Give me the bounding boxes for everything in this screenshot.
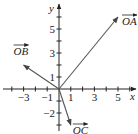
- vectors: OAOBOC: [14, 15, 137, 134]
- y-tick-label: 3: [50, 47, 56, 59]
- x-tick-label: 5: [115, 91, 121, 103]
- vector-label-text: OB: [14, 45, 29, 57]
- axes: [3, 4, 136, 131]
- coordinate-plane: −3−1135531−2 OAOBOC x y: [0, 0, 138, 134]
- vector-label-text: OA: [122, 15, 137, 27]
- y-tick-label: 1: [50, 71, 56, 83]
- vector-label-oa: OA: [122, 15, 137, 27]
- x-tick-label: 3: [92, 91, 98, 103]
- x-axis-label: x: [129, 90, 135, 102]
- vector-label-text: OC: [73, 124, 89, 134]
- x-tick-label: 1: [68, 91, 74, 103]
- x-tick-label: −3: [18, 91, 30, 103]
- y-axis-label: y: [48, 2, 54, 14]
- x-tick-label: −1: [41, 91, 53, 103]
- ticks: −3−1135531−2: [12, 17, 130, 125]
- y-tick-label: −2: [43, 107, 55, 119]
- vector-label-ob: OB: [14, 45, 29, 57]
- y-tick-label: 5: [50, 23, 56, 35]
- vector-label-oc: OC: [73, 124, 89, 134]
- vector-oa: [59, 17, 118, 89]
